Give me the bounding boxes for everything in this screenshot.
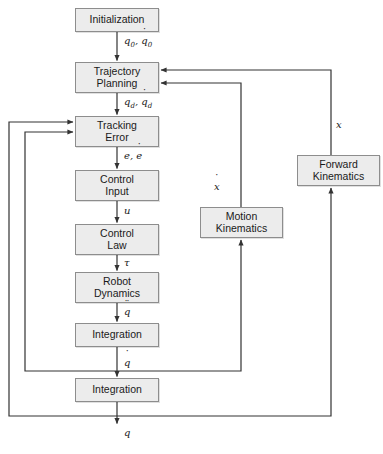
edge-label-joint-position: q bbox=[124, 428, 130, 438]
edge-label-joint-velocity: q bbox=[124, 358, 130, 368]
edge-label-joint-acceleration: q bbox=[124, 307, 130, 317]
node-robot-dynamics[interactable]: Robot Dynamics bbox=[75, 272, 159, 303]
edge-label-control-signal: u bbox=[124, 206, 130, 216]
node-motion-kinematics[interactable]: Motion Kinematics bbox=[200, 207, 283, 238]
node-integration-first[interactable]: Integration bbox=[75, 323, 159, 347]
block-diagram: Initialization Trajectory Planning Track… bbox=[0, 0, 383, 454]
node-integration-second[interactable]: Integration bbox=[75, 378, 159, 402]
edge-qdot-to-motion-kinematics bbox=[117, 240, 241, 371]
node-control-input[interactable]: Control Input bbox=[75, 170, 159, 201]
node-control-law[interactable]: Control Law bbox=[75, 224, 159, 255]
edge-motion-kinematics-to-trajectory bbox=[161, 83, 241, 207]
edge-label-torque: τ bbox=[124, 258, 130, 268]
edge-label-desired-trajectory: qd, qd bbox=[124, 97, 152, 111]
edge-label-cartesian-position: x bbox=[336, 120, 342, 130]
node-tracking-error[interactable]: Tracking Error bbox=[75, 116, 159, 147]
edge-label-cartesian-velocity: x bbox=[214, 182, 220, 192]
node-forward-kinematics[interactable]: Forward Kinematics bbox=[297, 155, 380, 186]
edge-label-error: e, e bbox=[124, 151, 142, 161]
diagram-connector-layer bbox=[0, 0, 383, 454]
edge-label-initial-conditions: q0, q0 bbox=[124, 36, 152, 50]
